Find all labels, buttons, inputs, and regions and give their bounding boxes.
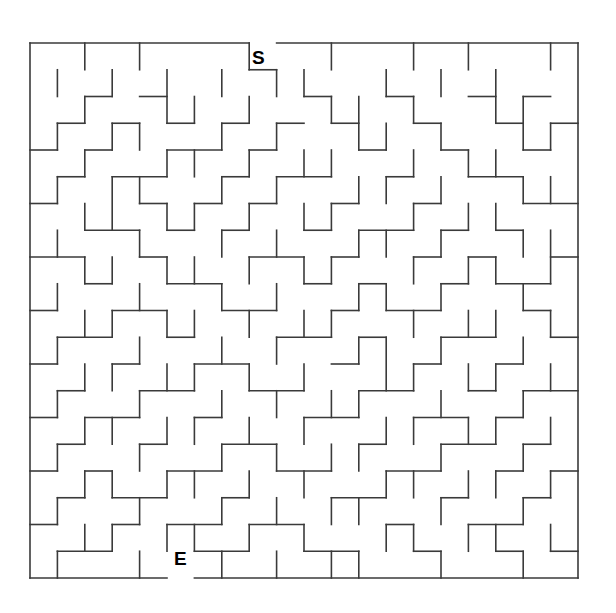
maze-start-label: S xyxy=(252,48,265,67)
maze-figure: S E xyxy=(0,0,616,613)
maze-walls-group xyxy=(30,43,578,578)
maze-canvas xyxy=(0,0,616,613)
maze-page: S E xyxy=(0,0,616,613)
maze-end-label: E xyxy=(174,549,187,568)
